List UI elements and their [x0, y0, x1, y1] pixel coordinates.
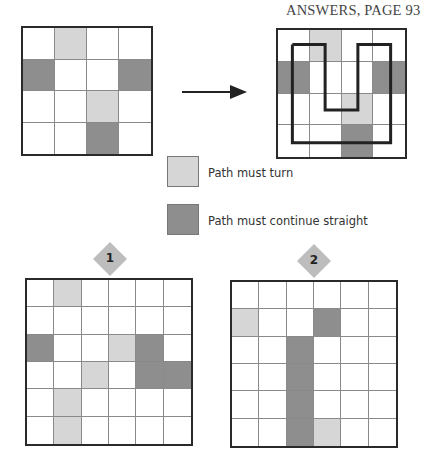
puzzle-2-grid[interactable] [230, 280, 398, 448]
cell-empty[interactable] [82, 280, 109, 307]
cell-empty[interactable] [341, 309, 368, 336]
cell-empty[interactable] [314, 337, 341, 364]
cell-empty[interactable] [341, 337, 368, 364]
cell-empty[interactable] [341, 282, 368, 309]
cell-straight[interactable] [287, 391, 314, 418]
cell-straight[interactable] [164, 362, 191, 389]
cell-empty[interactable] [54, 362, 81, 389]
cell-turn[interactable] [82, 362, 109, 389]
cell-empty[interactable] [232, 337, 259, 364]
cell-turn [55, 28, 87, 60]
cell-empty[interactable] [54, 307, 81, 334]
cell-turn [310, 30, 342, 62]
cell-straight [119, 60, 151, 92]
cell-empty[interactable] [27, 389, 54, 416]
puzzle-1-grid[interactable] [25, 278, 193, 446]
cell-straight[interactable] [287, 337, 314, 364]
legend-swatch-turn [167, 156, 199, 187]
cell-empty[interactable] [82, 389, 109, 416]
cell-empty[interactable] [259, 391, 286, 418]
cell-empty[interactable] [136, 307, 163, 334]
cell-empty[interactable] [314, 391, 341, 418]
cell-turn[interactable] [314, 419, 341, 446]
cell-turn[interactable] [232, 309, 259, 336]
cell-empty[interactable] [341, 419, 368, 446]
cell-empty [23, 91, 55, 123]
example-grid-solved [276, 28, 407, 159]
cell-empty[interactable] [232, 282, 259, 309]
arrow-right-icon [180, 83, 250, 101]
cell-empty[interactable] [164, 280, 191, 307]
cell-empty[interactable] [341, 364, 368, 391]
cell-empty[interactable] [164, 307, 191, 334]
cell-empty [278, 30, 310, 62]
cell-empty[interactable] [109, 280, 136, 307]
cell-empty[interactable] [287, 309, 314, 336]
cell-empty [119, 28, 151, 60]
cell-empty[interactable] [287, 282, 314, 309]
cell-empty [278, 94, 310, 126]
cell-empty[interactable] [109, 307, 136, 334]
cell-straight[interactable] [287, 419, 314, 446]
cell-empty[interactable] [27, 417, 54, 444]
cell-empty[interactable] [259, 419, 286, 446]
cell-straight[interactable] [136, 335, 163, 362]
cell-empty[interactable] [369, 391, 396, 418]
cell-turn[interactable] [54, 280, 81, 307]
cell-empty[interactable] [259, 309, 286, 336]
cell-straight [87, 123, 119, 155]
cell-empty[interactable] [164, 335, 191, 362]
cell-empty[interactable] [259, 337, 286, 364]
cell-turn[interactable] [54, 417, 81, 444]
cell-empty[interactable] [109, 417, 136, 444]
cell-straight[interactable] [27, 335, 54, 362]
cell-turn [87, 91, 119, 123]
legend-swatch-straight [167, 204, 199, 235]
cell-empty[interactable] [369, 364, 396, 391]
cell-empty[interactable] [341, 391, 368, 418]
cell-empty [310, 125, 342, 157]
cell-empty[interactable] [369, 282, 396, 309]
cell-straight[interactable] [136, 362, 163, 389]
cell-empty[interactable] [82, 335, 109, 362]
cell-empty[interactable] [259, 282, 286, 309]
cell-straight [373, 62, 405, 94]
cell-empty[interactable] [109, 362, 136, 389]
cell-empty [87, 60, 119, 92]
cell-empty[interactable] [232, 419, 259, 446]
cell-empty [310, 94, 342, 126]
cell-straight[interactable] [287, 364, 314, 391]
cell-empty[interactable] [136, 417, 163, 444]
cell-empty[interactable] [27, 307, 54, 334]
cell-empty [373, 125, 405, 157]
cell-empty[interactable] [54, 335, 81, 362]
cell-turn[interactable] [54, 389, 81, 416]
cell-empty[interactable] [82, 307, 109, 334]
cell-empty[interactable] [27, 362, 54, 389]
cell-empty[interactable] [164, 417, 191, 444]
cell-empty[interactable] [369, 419, 396, 446]
cell-turn[interactable] [109, 335, 136, 362]
cell-turn [342, 94, 374, 126]
cell-empty[interactable] [259, 364, 286, 391]
cell-empty[interactable] [232, 364, 259, 391]
example-grid-unsolved [21, 26, 153, 156]
cell-empty[interactable] [232, 391, 259, 418]
cell-empty[interactable] [82, 417, 109, 444]
cell-empty [119, 91, 151, 123]
cell-empty[interactable] [27, 280, 54, 307]
cell-straight[interactable] [314, 309, 341, 336]
legend-label-turn: Path must turn [208, 166, 293, 180]
cell-empty[interactable] [136, 280, 163, 307]
cell-empty[interactable] [164, 389, 191, 416]
cell-empty[interactable] [369, 337, 396, 364]
puzzle-2-number: 2 [297, 253, 331, 267]
cell-empty [373, 30, 405, 62]
cell-empty[interactable] [369, 309, 396, 336]
cell-empty[interactable] [314, 282, 341, 309]
cell-empty[interactable] [314, 364, 341, 391]
cell-empty [373, 94, 405, 126]
cell-empty [23, 28, 55, 60]
cell-empty[interactable] [136, 389, 163, 416]
cell-empty[interactable] [109, 389, 136, 416]
